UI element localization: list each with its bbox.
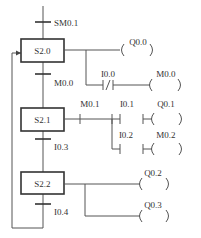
contact-label-i01: I0.1: [120, 99, 134, 109]
coil-q02-left-icon: [140, 178, 143, 190]
coil-label-m00: M0.0: [156, 69, 176, 79]
coil-label-q00: Q0.0: [129, 37, 147, 47]
coil-m00-right-icon: [178, 79, 181, 91]
step-s20: S2.0: [21, 39, 64, 62]
contact-label-m01: M0.1: [80, 99, 99, 109]
coil-label-q02: Q0.2: [144, 168, 162, 178]
transition-label-sm01: SM0.1: [54, 18, 78, 28]
step-label-s22: S2.2: [34, 179, 50, 189]
coil-m00-left-icon: [150, 79, 153, 91]
coil-q02-right-icon: [166, 178, 169, 190]
coil-m02-right-icon: [179, 143, 182, 155]
sfc-diagram: SM0.1 M0.0 I0.3 I0.4 S2.0 S2.1 S2.2 Q0.0…: [0, 0, 201, 238]
contact-label-i00: I0.0: [101, 69, 116, 79]
step-s22: S2.2: [21, 172, 64, 194]
coil-m02-left-icon: [152, 143, 155, 155]
transition-label-i03: I0.3: [54, 142, 69, 152]
coil-label-q01: Q0.1: [157, 99, 175, 109]
transition-label-i04: I0.4: [54, 207, 69, 217]
loop-back-line: [12, 53, 43, 228]
coil-q00-left-icon: [122, 44, 125, 56]
actions-s20: Q0.0 I0.0 M0.0: [64, 37, 181, 91]
coil-q03-left-icon: [140, 210, 143, 222]
coil-q01-left-icon: [152, 113, 155, 125]
coil-q03-right-icon: [166, 210, 169, 222]
step-label-s20: S2.0: [34, 46, 51, 56]
coil-label-m02: M0.2: [156, 130, 175, 140]
step-s21: S2.1: [21, 108, 64, 131]
coil-q00-right-icon: [150, 44, 153, 56]
coil-label-q03: Q0.3: [144, 200, 162, 210]
coil-q01-right-icon: [179, 113, 182, 125]
actions-s22: Q0.2 Q0.3: [64, 168, 169, 222]
contact-label-i02: I0.2: [119, 130, 133, 140]
actions-s21: M0.1 I0.1 Q0.1 I0.2 M0.2: [64, 99, 182, 155]
contact-i00-slash-icon: [106, 80, 110, 90]
transition-label-m00: M0.0: [54, 78, 74, 88]
step-label-s21: S2.1: [34, 115, 50, 125]
